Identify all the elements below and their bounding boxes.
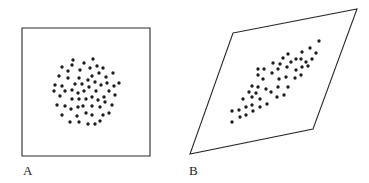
dot — [53, 83, 56, 86]
dot — [52, 89, 55, 92]
dot — [84, 97, 87, 100]
dot — [80, 82, 83, 85]
dot — [237, 108, 240, 111]
dot — [86, 122, 89, 125]
dot — [258, 105, 261, 108]
dot — [82, 89, 85, 92]
dot — [75, 114, 78, 117]
dot — [300, 65, 303, 68]
dot — [247, 90, 250, 93]
dot — [256, 73, 259, 76]
dot — [98, 119, 101, 122]
dot — [254, 91, 257, 94]
dot — [304, 60, 307, 63]
dot — [73, 82, 76, 85]
dot — [261, 77, 264, 80]
dot — [93, 122, 96, 125]
dot — [286, 52, 289, 55]
dot — [68, 120, 71, 123]
dot — [286, 85, 289, 88]
dot — [55, 103, 58, 106]
dot — [82, 61, 85, 64]
dot — [81, 104, 84, 107]
dot — [256, 85, 259, 88]
dot — [107, 111, 110, 114]
dot — [60, 113, 63, 116]
dot — [306, 64, 309, 67]
dot — [276, 85, 279, 88]
dot — [76, 105, 79, 108]
dot — [277, 77, 280, 80]
dot — [77, 120, 80, 123]
dot — [278, 62, 281, 65]
dot — [117, 81, 120, 84]
dot — [70, 97, 73, 100]
dot — [265, 102, 268, 105]
panel-b-label: B — [189, 164, 198, 177]
dot — [60, 84, 63, 87]
dot — [262, 67, 265, 70]
dot — [58, 94, 61, 97]
dot — [71, 58, 74, 61]
dot — [285, 65, 288, 68]
dot — [112, 84, 115, 87]
dot — [66, 69, 69, 72]
dot — [250, 103, 253, 106]
dot — [88, 66, 91, 69]
dot — [244, 105, 247, 108]
dot — [299, 73, 302, 76]
dot — [96, 98, 99, 101]
dot — [101, 66, 104, 69]
dot — [70, 63, 73, 66]
dot — [60, 65, 63, 68]
dot — [294, 57, 297, 60]
dot — [230, 120, 233, 123]
dot — [244, 113, 247, 116]
dot — [275, 95, 278, 98]
dot — [63, 89, 66, 92]
dot — [314, 51, 317, 54]
dot — [241, 97, 244, 100]
dot — [76, 91, 79, 94]
panel-a-label: A — [23, 164, 32, 177]
dot — [95, 64, 98, 67]
dot — [230, 109, 233, 112]
dot — [110, 103, 113, 106]
dot — [111, 71, 114, 74]
dot — [300, 50, 303, 53]
dot — [69, 107, 72, 110]
dot — [250, 84, 253, 87]
dot — [63, 104, 66, 107]
dot — [104, 75, 107, 78]
dot — [270, 71, 273, 74]
dot — [276, 67, 279, 70]
dot — [256, 67, 259, 70]
dot — [86, 78, 89, 81]
dot — [308, 46, 311, 49]
dot — [97, 71, 100, 74]
dot — [90, 74, 93, 77]
dot — [98, 105, 101, 108]
dot — [90, 113, 93, 116]
dot — [264, 87, 267, 90]
panel-b-parallelogram — [190, 9, 357, 154]
dot — [310, 57, 313, 60]
dot — [107, 89, 110, 92]
dot — [250, 95, 253, 98]
dot — [93, 80, 96, 83]
dot — [289, 60, 292, 63]
dot — [271, 61, 274, 64]
dot — [99, 83, 102, 86]
dot — [57, 74, 60, 77]
dot — [91, 57, 94, 60]
dot — [66, 76, 69, 79]
dot — [70, 88, 73, 91]
dot — [293, 76, 296, 79]
dot — [258, 97, 261, 100]
dot — [102, 95, 105, 98]
dot — [103, 100, 106, 103]
dot — [113, 93, 116, 96]
dot — [90, 95, 93, 98]
dot — [90, 104, 93, 107]
dot — [238, 115, 241, 118]
